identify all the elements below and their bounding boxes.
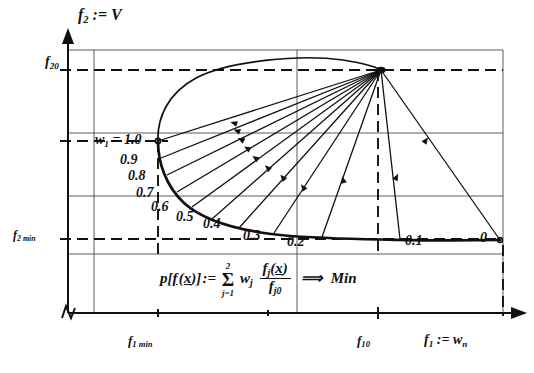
ray-w-0.1 [381, 70, 400, 239]
ray-w-0.9 [161, 70, 381, 158]
weight-label-0.4: 0.4 [203, 216, 221, 232]
weighted-sum-rays [158, 70, 500, 240]
y-tick-label-f2min: f2 min [13, 228, 36, 243]
weight-label-0.8: 0.8 [128, 168, 146, 184]
pareto-front-figure [0, 0, 534, 373]
objective-ratio: fj(x) fj0 [260, 261, 291, 296]
ray-w-0.4 [239, 70, 381, 228]
y-axis-title: f2 := V [78, 6, 122, 25]
weight-label-0: 0 [480, 230, 487, 246]
ray-w-0.0 [381, 70, 500, 240]
utopia-point-marker [376, 67, 385, 73]
objective-function-formula: p[f (x)] := 2 Σ j=1 wj fj(x) fj0 ⟹ Min [160, 262, 357, 297]
ray-w-0.6 [192, 70, 381, 207]
y-tick-label-f20: f20 [45, 54, 59, 71]
weight-label-0.6: 0.6 [151, 199, 169, 215]
weight-label-0.2: 0.2 [287, 234, 305, 250]
weight-label-0.9: 0.9 [120, 152, 138, 168]
summation-symbol: 2 Σ j=1 [222, 262, 234, 297]
x-tick-label-f10: f10 [357, 333, 370, 349]
ray-w-0.3 [274, 70, 381, 233]
x-tick-label-f1min: f1 min [128, 333, 153, 349]
weight-label-0.1: 0.1 [405, 233, 423, 249]
weight-label-1.0: w1 = 1.0 [95, 132, 141, 149]
weight-label-0.5: 0.5 [176, 209, 194, 225]
ray-w-0.5 [212, 70, 381, 219]
x-axis-title: f1 := wn [424, 332, 467, 349]
ray-w-0.7 [177, 70, 381, 192]
weight-label-0.3: 0.3 [243, 228, 261, 244]
